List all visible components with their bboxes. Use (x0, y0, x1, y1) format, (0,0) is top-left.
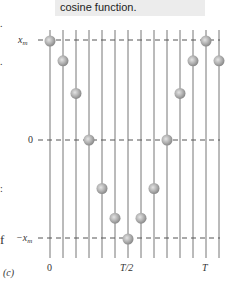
y-label-zero: 0 (28, 134, 33, 145)
particle-ball (214, 55, 225, 66)
particle-ball (175, 88, 186, 99)
particle-ball (58, 55, 69, 66)
particle-ball (110, 213, 121, 224)
x-label-zero: 0 (47, 262, 52, 273)
particle-ball (84, 135, 95, 146)
particle-positions (45, 36, 225, 245)
particle-ball (136, 213, 147, 224)
oscillation-diagram: xm 0 −xm 0 T/2 T (c) (0, 0, 236, 289)
x-label-half-period: T/2 (120, 262, 133, 273)
y-label-max: xm (17, 34, 28, 47)
particle-ball (201, 36, 212, 47)
particle-ball (123, 234, 134, 245)
particle-ball (71, 88, 82, 99)
particle-ball (97, 183, 108, 194)
x-label-period: T (202, 262, 209, 273)
particle-ball (45, 36, 56, 47)
y-label-min: −xm (16, 232, 32, 245)
panel-label: (c) (3, 267, 15, 279)
particle-ball (162, 135, 173, 146)
particle-ball (188, 55, 199, 66)
particle-ball (149, 183, 160, 194)
